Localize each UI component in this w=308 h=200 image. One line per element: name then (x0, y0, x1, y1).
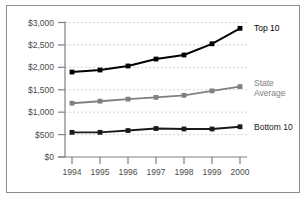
y-tick-label: $1,500 (28, 85, 54, 95)
data-point-marker (238, 84, 243, 89)
y-tick-label: $0 (45, 152, 55, 162)
x-tick-label: 1996 (119, 167, 138, 177)
y-tick-label: $3,000 (28, 18, 54, 28)
data-point-marker (154, 57, 159, 62)
series-lines (70, 26, 243, 135)
data-point-marker (238, 26, 243, 31)
series-label-bottom-10: Bottom 10 (254, 122, 293, 132)
x-tick-label: 1995 (91, 167, 110, 177)
data-point-marker (182, 53, 187, 58)
y-tick-label: $500 (35, 130, 54, 140)
data-point-marker (98, 68, 103, 73)
y-tick-label: $2,500 (28, 40, 54, 50)
chart-figure: $0$500$1,000$1,500$2,000$2,500$3,000 199… (0, 0, 308, 200)
x-tick-label: 1994 (63, 167, 82, 177)
data-point-marker (126, 64, 131, 69)
series-line (72, 87, 240, 104)
x-tick-label: 1999 (203, 167, 222, 177)
data-point-marker (98, 130, 103, 135)
data-point-marker (70, 130, 75, 135)
data-point-marker (210, 41, 215, 46)
data-point-marker (70, 70, 75, 75)
y-tick-label: $2,000 (28, 62, 54, 72)
line-chart: $0$500$1,000$1,500$2,000$2,500$3,000 199… (0, 0, 308, 200)
data-point-marker (154, 126, 159, 131)
y-tick-label: $1,000 (28, 107, 54, 117)
y-axis: $0$500$1,000$1,500$2,000$2,500$3,000 (28, 18, 65, 163)
series-line (72, 28, 240, 72)
x-tick-label: 2000 (231, 167, 250, 177)
data-point-marker (98, 99, 103, 104)
series-label-top-10: Top 10 (254, 23, 280, 33)
x-axis: 1994199519961997199819992000 (58, 157, 250, 177)
x-tick-label: 1998 (175, 167, 194, 177)
series-annotations: Top 10StateAverageBottom 10 (254, 23, 293, 131)
data-point-marker (210, 88, 215, 93)
data-point-marker (182, 93, 187, 98)
x-tick-label: 1997 (147, 167, 166, 177)
data-point-marker (154, 95, 159, 100)
data-point-marker (238, 124, 243, 129)
data-point-marker (182, 127, 187, 132)
data-point-marker (210, 127, 215, 132)
data-point-marker (126, 97, 131, 102)
series-label-state-average: StateAverage (254, 78, 286, 98)
data-point-marker (126, 128, 131, 133)
data-point-marker (70, 101, 75, 106)
